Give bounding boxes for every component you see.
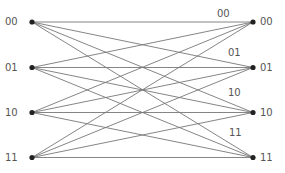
right-state-node-0 bbox=[250, 19, 255, 24]
right-state-label-3: 11 bbox=[260, 153, 273, 163]
left-state-label-1: 01 bbox=[5, 63, 18, 73]
edge-label-1: 01 bbox=[228, 48, 241, 58]
right-state-label-1: 01 bbox=[260, 63, 273, 73]
right-state-label-0: 00 bbox=[260, 17, 273, 27]
left-state-label-3: 11 bbox=[5, 153, 18, 163]
edge-label-2: 10 bbox=[228, 88, 241, 98]
left-state-node-0 bbox=[29, 19, 34, 24]
left-state-label-0: 00 bbox=[5, 17, 18, 27]
left-state-node-3 bbox=[29, 155, 34, 160]
trellis-edges bbox=[0, 0, 285, 173]
left-state-label-2: 10 bbox=[5, 108, 18, 118]
trellis-diagram: 00 01 10 11 00 01 10 11 00 01 10 11 bbox=[0, 0, 285, 173]
left-state-node-2 bbox=[29, 110, 34, 115]
left-state-node-1 bbox=[29, 65, 34, 70]
right-state-node-1 bbox=[250, 65, 255, 70]
edge-label-3: 11 bbox=[229, 128, 242, 138]
right-state-label-2: 10 bbox=[260, 108, 273, 118]
edge-label-0: 00 bbox=[217, 9, 230, 19]
right-state-node-2 bbox=[250, 110, 255, 115]
right-state-node-3 bbox=[250, 155, 255, 160]
